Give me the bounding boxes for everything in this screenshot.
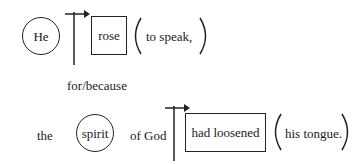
subject-spirit: spirit xyxy=(82,127,109,140)
verb-had-loosened: had loosened xyxy=(191,126,259,139)
object-his-tongue: his tongue. xyxy=(285,127,342,140)
modifier-of-god: of God xyxy=(130,129,166,142)
subject-he: He xyxy=(33,30,48,43)
connector-for-because: for/because xyxy=(67,79,127,92)
subject-circle-spirit: spirit xyxy=(76,114,114,152)
complement-to-speak: to speak, xyxy=(146,30,192,43)
verb-rose: rose xyxy=(98,29,120,42)
subject-circle-he: He xyxy=(22,17,60,55)
verb-box-rose: rose xyxy=(91,16,127,55)
article-the: the xyxy=(37,129,53,142)
verb-box-had-loosened: had loosened xyxy=(185,113,266,152)
